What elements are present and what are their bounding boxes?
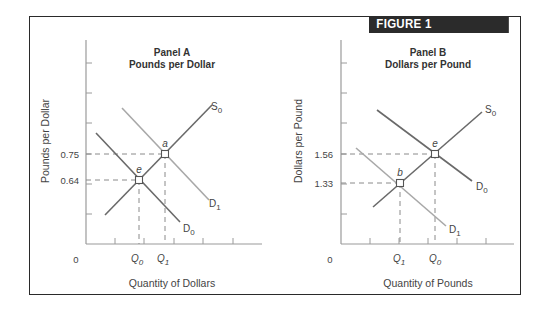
panel-b-s0-curve [373,112,482,207]
panel-a: a e S0 D1 D0 0.75 0.64 0 Q0 Q1 Panel A P… [39,40,262,289]
panel-a-xlabel: Quantity of Dollars [129,277,215,289]
panel-a-s0-label: S0 [211,101,223,115]
panel-b-d0-curve [377,110,472,181]
panel-a-ytick-075: 0.75 [61,149,80,160]
panel-a-ytick-064: 0.64 [61,175,80,186]
panel-b-point-e [432,151,439,158]
panel-a-title: Panel A [154,47,190,58]
panel-b-xtick-q0: Q0 [429,253,442,267]
panel-b-s0-label: S0 [485,104,497,118]
panel-a-xtick-q1: Q1 [157,253,169,267]
panel-a-point-a-label: a [162,138,168,149]
panel-b-origin: 0 [327,254,332,265]
panel-b-point-b-label: b [397,167,403,178]
panel-a-point-e [136,177,143,184]
panel-b-d0-label: D0 [476,181,488,195]
panel-a-subtitle: Pounds per Dollar [129,59,215,70]
panel-a-d0-label: D0 [183,223,195,237]
panel-a-d1-label: D1 [209,198,221,212]
panel-a-origin: 0 [73,254,78,265]
panel-b-point-b [397,180,404,187]
panel-b-xlabel: Quantity of Pounds [383,277,472,289]
panel-b-ytick-156: 1.56 [315,149,334,160]
panel-a-x-ticks [115,238,233,244]
panel-b-subtitle: Dollars per Pound [385,59,471,70]
panel-a-ylabel: Pounds per Dollar [39,98,51,183]
panel-b: e b S0 D0 D1 1.56 1.33 0 Q1 Q0 Panel B D… [292,40,514,289]
panel-a-guides [86,154,165,244]
panel-b-point-e-label: e [432,138,438,149]
panel-a-point-e-label: e [136,164,142,175]
panel-b-x-ticks [370,238,486,244]
panel-b-title: Panel B [410,47,447,58]
panel-b-xtick-q1: Q1 [393,253,405,267]
figure-svg: a e S0 D1 D0 0.75 0.64 0 Q0 Q1 Panel A P… [0,0,550,316]
panel-a-y-ticks [86,63,92,214]
panel-b-y-ticks [341,63,347,214]
panel-a-xtick-q0: Q0 [131,253,144,267]
panel-b-guides [341,154,435,244]
panel-b-d1-label: D1 [449,224,461,238]
panel-a-point-a [162,151,169,158]
panel-b-ytick-133: 1.33 [315,178,334,189]
panel-b-ylabel: Dollars per Pound [292,99,304,183]
